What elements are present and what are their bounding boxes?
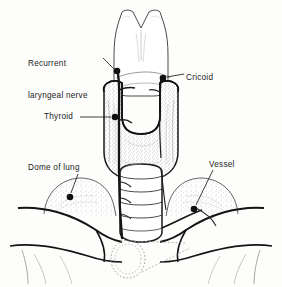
label-cricoid: Cricoid: [186, 73, 213, 84]
clavicle-left: [10, 208, 122, 284]
clavicle-right: [160, 208, 272, 284]
label-recurrent-laryngeal-nerve-line1: Recurrent: [28, 59, 88, 70]
label-vessel: Vessel: [209, 160, 235, 171]
label-recurrent-laryngeal-nerve-line2: laryngeal nerve: [28, 91, 88, 102]
leader-cricoid: [160, 74, 184, 81]
thyroid-anatomy-figure: Recurrent laryngeal nerve Cricoid Thyroi…: [0, 0, 282, 287]
label-thyroid: Thyroid: [44, 112, 73, 123]
label-recurrent-laryngeal-nerve: Recurrent laryngeal nerve: [28, 38, 88, 122]
trachea: [120, 164, 162, 242]
left-dome-of-lung: [44, 178, 116, 216]
label-dome-of-lung: Dome of lung: [28, 163, 80, 174]
